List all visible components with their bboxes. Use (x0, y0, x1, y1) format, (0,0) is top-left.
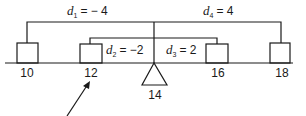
position-label-16: 16 (211, 66, 225, 80)
deviation-label-d4: d4= 4 (203, 3, 234, 19)
weight-box-12 (80, 44, 102, 63)
weight-box-10 (17, 43, 38, 63)
position-label-18: 18 (275, 66, 289, 80)
weight-box-18 (270, 43, 290, 63)
fulcrum-triangle-icon (142, 63, 167, 85)
balance-beam-diagram: 10 12 16 18 14 d1= − 4 d4= 4 d2= −2 d3= … (0, 0, 306, 116)
position-label-10: 10 (20, 66, 34, 80)
fulcrum-label: 14 (148, 88, 162, 102)
weight-box-16 (206, 44, 228, 63)
pointer-arrow-icon (67, 81, 90, 116)
deviation-label-d3: d3= 2 (166, 42, 197, 58)
deviation-label-d2: d2= −2 (106, 42, 144, 58)
deviation-label-d1: d1= − 4 (67, 3, 108, 19)
position-label-12: 12 (84, 66, 98, 80)
